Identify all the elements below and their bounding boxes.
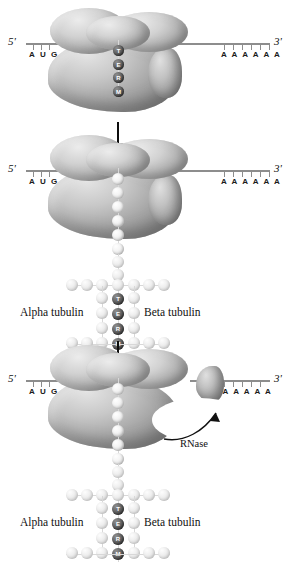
ribosome-small-subunit-protrusion [148,48,182,98]
lattice-bead [96,547,108,559]
lattice-bead [128,547,140,559]
lattice-bead [158,489,170,501]
residue-bead-e: E [112,518,124,530]
residue-bead-r: R [112,533,124,545]
lattice-bead [143,489,155,501]
poly-a-label: A A A A A A [221,50,281,59]
lattice-bead [158,279,170,291]
polypeptide-bead [112,215,124,227]
lattice-bead [96,322,108,334]
lattice-bead [66,279,78,291]
panel-3-stage: 5' A U G 3' A A A A A A RNase [0,340,296,574]
panel-rnase-cleaving: 5' A U G 3' A A A A A A RNase [0,340,296,574]
lattice-bead [128,532,140,544]
residue-bead-r: R [112,323,124,335]
three-prime-label: 3' [274,35,282,47]
lattice-bead [128,502,140,514]
lattice-bead [128,517,140,529]
polypeptide-bead [112,397,124,409]
rnase-label: RNase [180,438,208,449]
panel-ribosome-translating: 5' 3' A U G A A A A A A T E R M [0,0,296,118]
five-prime-label: 5' [8,372,16,384]
lattice-bead [128,322,140,334]
lattice-bead [143,279,155,291]
lattice-bead [96,307,108,319]
three-prime-label: 3' [274,162,282,174]
five-prime-label: 5' [8,35,16,47]
lattice-bead [96,502,108,514]
lattice-bead [128,307,140,319]
beta-tubulin-label: Beta tubulin [144,306,201,318]
polypeptide-bead [112,187,124,199]
residue-bead-t: T [112,293,124,305]
lattice-bead [66,547,78,559]
ribosome-small-subunit-protrusion [148,175,182,225]
lattice-bead [112,489,124,501]
alpha-tubulin-label: Alpha tubulin [20,306,84,318]
residue-bead-e: E [112,308,124,320]
lattice-bead [81,279,93,291]
five-prime-label: 5' [8,162,16,174]
panel-2-stage: 5' 3' A U G A A A A A A [0,118,296,340]
polypeptide-bead [112,425,124,437]
lattice-bead [112,279,124,291]
panel-1-stage: 5' 3' A U G A A A A A A T E R M [0,0,296,118]
residue-bead-e: E [113,59,124,70]
lattice-bead [143,547,155,559]
lattice-bead [96,517,108,529]
lattice-bead [66,489,78,501]
lattice-bead [158,547,170,559]
residue-bead-t: T [112,503,124,515]
alpha-tubulin-label: Alpha tubulin [20,516,84,528]
polypeptide-bead [112,439,124,451]
lattice-bead [112,466,124,478]
three-prime-label: 3' [274,372,282,384]
residue-bead-t: T [113,45,124,56]
lattice-bead [128,292,140,304]
polypeptide-bead [112,201,124,213]
polypeptide-bead [112,229,124,241]
lattice-bead [81,489,93,501]
lattice-bead [96,532,108,544]
lattice-bead [96,292,108,304]
lattice-bead [81,547,93,559]
residue-bead-m: M [113,86,124,97]
panel-polypeptide-elongating: 5' 3' A U G A A A A A A [0,118,296,340]
poly-a-label: A A A A A A [221,177,281,186]
residue-bead-r: R [113,72,124,83]
polypeptide-bead [112,383,124,395]
beta-tubulin-label: Beta tubulin [144,516,201,528]
polypeptide-bead [112,411,124,423]
polypeptide-bead [112,173,124,185]
lattice-bead [112,256,124,268]
